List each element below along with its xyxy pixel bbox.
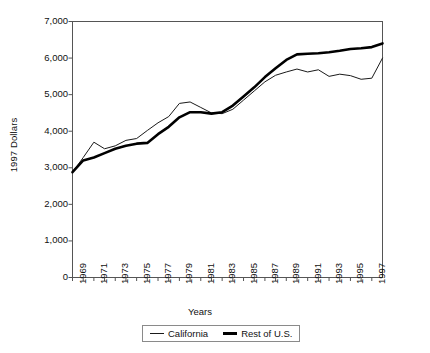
legend-line-california-icon <box>150 333 164 334</box>
x-tick-label: 1985 <box>248 262 259 283</box>
legend-item-california: California <box>150 328 208 339</box>
legend-line-rest-of-us-icon <box>223 332 237 335</box>
chart-legend: California Rest of U.S. <box>142 325 300 342</box>
x-tick-label: 1979 <box>183 262 194 283</box>
x-tick-label: 1981 <box>205 262 216 283</box>
x-tick-label: 1977 <box>162 262 173 283</box>
x-axis-tick-labels: 1969197119731975197719791981198319851987… <box>0 0 430 353</box>
x-tick-label: 1989 <box>290 262 301 283</box>
x-axis-title: Years <box>188 306 212 317</box>
line-chart: 1997 Dollars 01,0002,0003,0004,0005,0006… <box>0 0 430 353</box>
x-tick-label: 1991 <box>312 262 323 283</box>
x-tick-label: 1997 <box>376 262 387 283</box>
legend-item-rest-of-us: Rest of U.S. <box>223 328 292 339</box>
legend-label-rest-of-us: Rest of U.S. <box>241 328 292 339</box>
x-tick-label: 1983 <box>226 262 237 283</box>
legend-label-california: California <box>168 328 208 339</box>
x-tick-label: 1971 <box>98 262 109 283</box>
x-tick-label: 1993 <box>333 262 344 283</box>
x-tick-label: 1969 <box>77 262 88 283</box>
x-tick-label: 1987 <box>269 262 280 283</box>
x-tick-label: 1995 <box>354 262 365 283</box>
x-tick-label: 1975 <box>141 262 152 283</box>
x-tick-label: 1973 <box>119 262 130 283</box>
